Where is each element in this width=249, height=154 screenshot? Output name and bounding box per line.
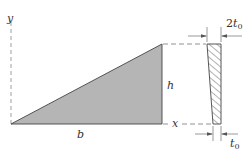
bottom-arrowhead-left: [207, 132, 213, 135]
top-thickness-label: 2t0: [226, 18, 243, 31]
y-axis-label: y: [7, 13, 13, 24]
diagram-canvas: [0, 0, 249, 154]
top-arrowhead-left: [201, 34, 207, 37]
top-thickness-coef: 2: [226, 17, 233, 30]
triangle-plate: [11, 44, 162, 124]
height-label: h: [167, 80, 174, 91]
x-label: x: [172, 118, 178, 129]
bottom-thickness-label: t0: [230, 138, 240, 151]
top-arrowhead-right: [221, 34, 227, 37]
bottom-arrowhead-right: [221, 132, 227, 135]
top-thickness-subscript: 0: [237, 22, 242, 31]
bottom-thickness-subscript: 0: [234, 142, 239, 151]
cross-section-hatched: [207, 44, 221, 124]
base-label: b: [77, 129, 84, 140]
